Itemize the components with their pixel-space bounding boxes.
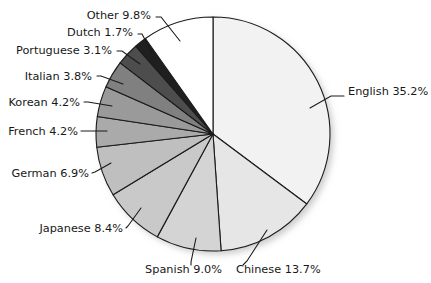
- pie-label-italian: Italian 3.8%: [25, 70, 93, 83]
- pie-label-dutch: Dutch 1.7%: [67, 26, 133, 39]
- pie-label-korean: Korean 4.2%: [9, 96, 81, 109]
- pie-label-french: French 4.2%: [8, 125, 78, 138]
- pie-label-english: English 35.2%: [348, 85, 429, 98]
- pie-label-spanish: Spanish 9.0%: [145, 263, 222, 276]
- pie-label-chinese: Chinese 13.7%: [236, 263, 321, 276]
- pie-label-other: Other 9.8%: [87, 9, 152, 22]
- pie-slices-group: [96, 17, 330, 251]
- pie-chart: English 35.2%Chinese 13.7%Spanish 9.0%Ja…: [0, 0, 431, 283]
- chart-page: English 35.2%Chinese 13.7%Spanish 9.0%Ja…: [0, 0, 431, 283]
- pie-label-japanese: Japanese 8.4%: [38, 222, 123, 235]
- pie-label-german: German 6.9%: [11, 167, 89, 180]
- pie-label-portuguese: Portuguese 3.1%: [16, 44, 112, 57]
